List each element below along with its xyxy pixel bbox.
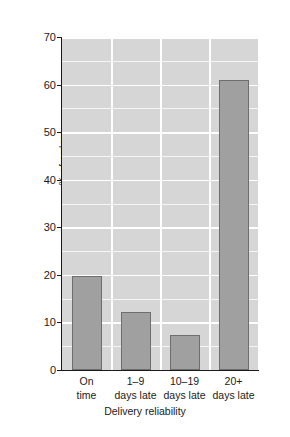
x-tick-label-line: days late	[209, 389, 258, 403]
y-tick-label: 0	[34, 364, 56, 376]
x-tick-label-line: days late	[160, 389, 209, 403]
y-tick-label: 60	[34, 79, 56, 91]
y-tick-label: 40	[34, 174, 56, 186]
y-axis-tick-labels: 010203040506070	[34, 37, 56, 370]
bar	[219, 80, 249, 370]
bar	[170, 335, 200, 370]
x-tick-label-line: 20+	[209, 375, 258, 389]
bar-chart: % of orders 010203040506070 Ontime1–9day…	[0, 0, 290, 437]
y-tick-mark	[57, 370, 62, 371]
x-tick-label-line: On	[62, 375, 111, 389]
y-tick-label: 10	[34, 316, 56, 328]
x-tick-label: 20+days late	[209, 375, 258, 402]
gridline-vertical	[209, 37, 211, 370]
y-tick-label: 30	[34, 221, 56, 233]
y-tick-mark	[57, 322, 62, 323]
y-tick-mark	[57, 275, 62, 276]
x-tick-label: Ontime	[62, 375, 111, 402]
bar	[121, 312, 151, 371]
x-tick-label: 10–19days late	[160, 375, 209, 402]
y-tick-mark	[57, 132, 62, 133]
x-axis-line	[61, 370, 259, 371]
gridline-vertical	[111, 37, 113, 370]
y-tick-label: 50	[34, 126, 56, 138]
x-tick-label: 1–9days late	[111, 375, 160, 402]
y-axis-line	[61, 37, 62, 371]
x-tick-label-line: time	[62, 389, 111, 403]
gridline-vertical	[160, 37, 162, 370]
y-tick-mark	[57, 37, 62, 38]
y-tick-label: 70	[34, 31, 56, 43]
y-tick-mark	[57, 227, 62, 228]
x-tick-label-line: 1–9	[111, 375, 160, 389]
y-tick-mark	[57, 85, 62, 86]
y-tick-mark	[57, 180, 62, 181]
bar	[72, 276, 102, 370]
y-tick-label: 20	[34, 269, 56, 281]
plot-area	[62, 37, 258, 370]
x-tick-label-line: days late	[111, 389, 160, 403]
x-tick-label-line: 10–19	[160, 375, 209, 389]
x-axis-title: Delivery reliability	[0, 405, 290, 417]
